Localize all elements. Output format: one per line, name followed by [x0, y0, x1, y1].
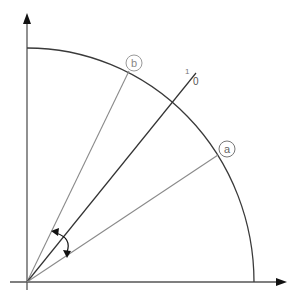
ray-a — [27, 155, 218, 282]
quarter-circle-arc — [27, 48, 254, 282]
ray-b — [27, 71, 129, 282]
marker-b: b — [126, 55, 142, 71]
angle-diagram: 1 0 b a — [0, 0, 299, 304]
marker-a-label: a — [224, 143, 231, 155]
angle-arrow — [51, 228, 71, 258]
x-axis-arrow-icon — [276, 278, 287, 286]
marker-a: a — [219, 141, 235, 157]
reference-label-top: 1 — [185, 67, 190, 76]
ray-reference — [27, 73, 196, 282]
axes — [10, 13, 287, 290]
marker-b-label: b — [131, 57, 137, 69]
y-axis-arrow-icon — [23, 13, 31, 24]
reference-label-bottom: 0 — [193, 76, 199, 87]
